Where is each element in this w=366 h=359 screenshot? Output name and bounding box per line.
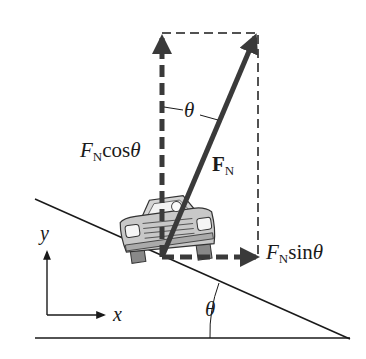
theta-bottom-label: θ: [205, 297, 215, 322]
incline-diagram: [0, 0, 366, 359]
theta-top-label: θ: [184, 98, 194, 123]
fn-vector-label: FN: [212, 152, 234, 177]
theta-leader-left: [164, 107, 183, 110]
fn-cos-label: FNcosθ: [80, 138, 141, 163]
theta-leader-right: [200, 115, 218, 120]
y-axis-label: y: [40, 222, 49, 245]
x-axis-label: x: [113, 303, 122, 326]
fn-sin-label: FNsinθ: [266, 240, 323, 265]
